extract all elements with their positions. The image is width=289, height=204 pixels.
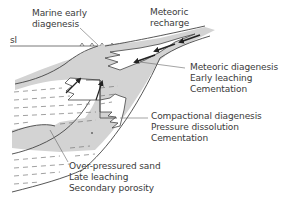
meteoric-line-1: Meteoric diagenesis (190, 62, 278, 73)
meteoric-recharge-label: Meteoric recharge (150, 7, 189, 29)
marine-line-1: Marine early (32, 8, 87, 19)
compactional-line-3: Cementation (151, 133, 262, 144)
meteoric-diagenesis-label: Meteoric diagenesis Early leaching Cemen… (190, 62, 278, 95)
meteoric-line-3: Cementation (190, 84, 278, 95)
recharge-line-2: recharge (150, 18, 189, 29)
sea-level-text: sl (10, 35, 17, 46)
marine-diagenesis-label: Marine early diagenesis (32, 8, 87, 30)
overpressured-line-2: Late leaching (69, 172, 161, 183)
diagenesis-cross-section-diagram: sl Marine early diagenesis Meteoric rech… (0, 0, 289, 204)
overpressured-sand-label: Over-pressured sand Late leaching Second… (69, 161, 161, 194)
recharge-line-1: Meteoric (150, 7, 189, 18)
overpressured-line-3: Secondary porosity (69, 183, 161, 194)
sea-level-label: sl (10, 35, 17, 46)
compactional-line-2: Pressure dissolution (151, 122, 262, 133)
marine-line-2: diagenesis (32, 19, 87, 30)
overpressured-line-1: Over-pressured sand (69, 161, 161, 172)
compactional-line-1: Compactional diagenesis (151, 111, 262, 122)
compactional-diagenesis-label: Compactional diagenesis Pressure dissolu… (151, 111, 262, 144)
sample-dot (91, 132, 93, 134)
meteoric-line-2: Early leaching (190, 73, 278, 84)
